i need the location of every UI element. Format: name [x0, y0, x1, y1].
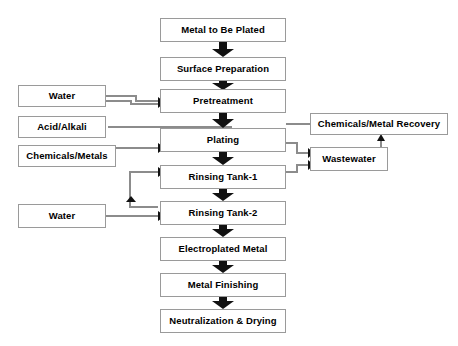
node-chemicals-metals[interactable]: Chemicals/Metals: [18, 145, 116, 167]
node-metal-to-be-plated[interactable]: Metal to Be Plated: [160, 18, 286, 42]
arrow-rinsing2-to-electroplated: [212, 225, 234, 237]
node-wastewater[interactable]: Wastewater: [310, 147, 388, 171]
arrowhead-loop-corner: [126, 196, 136, 202]
arrowhead-into-recovery-bottom: [377, 134, 385, 141]
arrow-finishing-to-neutralization: [212, 297, 234, 309]
arrow-pretreatment-to-plating: [212, 113, 234, 128]
arrow-metal-to-surface: [212, 42, 234, 57]
node-water-top[interactable]: Water: [18, 85, 106, 107]
node-rinsing-tank-2[interactable]: Rinsing Tank-2: [160, 201, 286, 225]
node-plating[interactable]: Plating: [160, 128, 286, 152]
node-pretreatment[interactable]: Pretreatment: [160, 89, 286, 113]
node-chemicals-metal-recovery[interactable]: Chemicals/Metal Recovery: [310, 113, 448, 135]
node-surface-preparation[interactable]: Surface Preparation: [160, 57, 286, 81]
arrow-rinsing1-to-rinsing2: [212, 189, 234, 201]
node-neutralization-and-drying[interactable]: Neutralization & Drying: [160, 309, 286, 333]
arrow-plating-to-rinsing1: [212, 152, 234, 165]
node-acid-alkali[interactable]: Acid/Alkali: [18, 116, 106, 138]
node-rinsing-tank-1[interactable]: Rinsing Tank-1: [160, 165, 286, 189]
node-electroplated-metal[interactable]: Electroplated Metal: [160, 237, 286, 261]
node-metal-finishing[interactable]: Metal Finishing: [160, 273, 286, 297]
node-water-bottom[interactable]: Water: [18, 204, 106, 228]
arrow-electroplated-to-finishing: [212, 261, 234, 273]
flowchart-canvas: Metal to Be Plated Surface Preparation P…: [0, 0, 458, 346]
